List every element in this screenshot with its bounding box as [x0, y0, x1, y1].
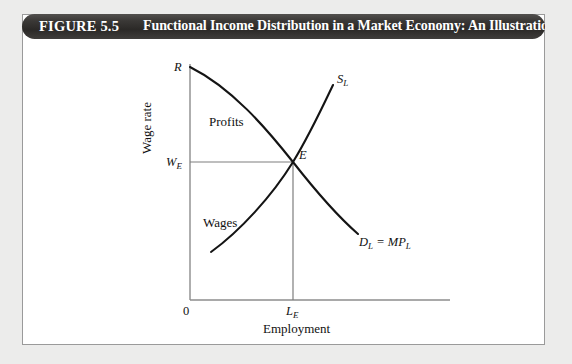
- figure-root: FIGURE 5.5 Functional Income Distributio…: [0, 0, 572, 364]
- figure-panel: [22, 14, 545, 345]
- x-axis-title: Employment: [263, 322, 330, 335]
- wage-label-subscript: E: [176, 161, 182, 171]
- curve-label-demand: DL = MPL: [359, 236, 411, 251]
- figure-caption-bar: FIGURE 5.5 Functional Income Distributio…: [22, 14, 545, 39]
- region-label-wages: Wages: [203, 216, 237, 229]
- employment-label-base: L: [286, 304, 293, 318]
- region-label-profits: Profits: [209, 115, 244, 128]
- curve-label-supply: SL: [337, 73, 348, 88]
- employment-label-subscript: E: [293, 310, 299, 320]
- demand-label-mp-subscript: L: [406, 241, 411, 251]
- axis-label-equilibrium-employment: LE: [286, 305, 298, 320]
- axis-label-equilibrium-wage: WE: [166, 156, 182, 171]
- demand-label-mp: MP: [388, 235, 406, 249]
- demand-label-base: D: [359, 235, 368, 249]
- supply-label-subscript: L: [343, 78, 348, 88]
- axis-label-R: R: [174, 61, 182, 74]
- wage-label-base: W: [166, 155, 176, 169]
- demand-label-equals: =: [373, 235, 388, 249]
- figure-title: Functional Income Distribution in a Mark…: [143, 18, 545, 34]
- axis-origin-label: 0: [183, 305, 189, 318]
- figure-number: FIGURE 5.5: [39, 18, 119, 35]
- y-axis-title: Wage rate: [140, 102, 153, 154]
- equilibrium-point-label: E: [299, 149, 307, 162]
